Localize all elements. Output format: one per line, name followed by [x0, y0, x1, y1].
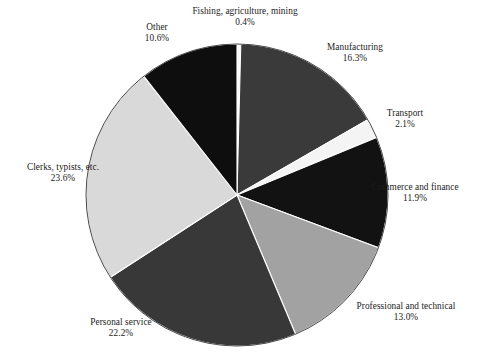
slice-label-professional: Professional and technical 13.0%: [330, 301, 482, 324]
slice-label-transport-pct: 2.1%: [350, 119, 460, 130]
slice-label-clerks: Clerks, typists, etc. 23.6%: [2, 162, 124, 185]
slice-label-commerce: Commerce and finance 11.9%: [348, 182, 482, 205]
slice-label-professional-pct: 13.0%: [330, 312, 482, 323]
pie-chart: Fishing, agriculture, mining 0.4% Other …: [0, 0, 483, 359]
slice-label-other: Other 10.6%: [118, 22, 196, 45]
slice-label-personal-name: Personal service: [52, 317, 190, 328]
slice-label-personal-pct: 22.2%: [52, 328, 190, 339]
slice-label-professional-name: Professional and technical: [330, 301, 482, 312]
slice-label-commerce-name: Commerce and finance: [348, 182, 482, 193]
slice-label-fishing-name: Fishing, agriculture, mining: [150, 6, 340, 17]
slice-label-transport-name: Transport: [350, 108, 460, 119]
slice-label-manufacturing-name: Manufacturing: [290, 42, 420, 53]
slice-label-other-name: Other: [118, 22, 196, 33]
slice-label-other-pct: 10.6%: [118, 33, 196, 44]
slice-label-transport: Transport 2.1%: [350, 108, 460, 131]
slice-label-commerce-pct: 11.9%: [348, 193, 482, 204]
slice-label-manufacturing-pct: 16.3%: [290, 53, 420, 64]
slice-label-personal: Personal service 22.2%: [52, 317, 190, 340]
slice-label-clerks-pct: 23.6%: [2, 173, 124, 184]
slice-label-manufacturing: Manufacturing 16.3%: [290, 42, 420, 65]
slice-label-clerks-name: Clerks, typists, etc.: [2, 162, 124, 173]
